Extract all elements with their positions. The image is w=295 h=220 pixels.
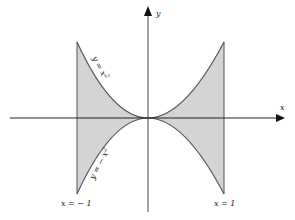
- bound-left-label: x = − 1: [61, 199, 92, 208]
- x-axis-label: x: [280, 103, 285, 112]
- region-diagram: x y y = x2 y = − x2 x = − 1 x = 1: [0, 0, 295, 220]
- y-axis-arrow-icon: [144, 6, 152, 16]
- y-axis-label: y: [155, 9, 161, 18]
- bound-right-label: x = 1: [214, 199, 235, 208]
- x-axis-arrow-icon: [276, 114, 285, 122]
